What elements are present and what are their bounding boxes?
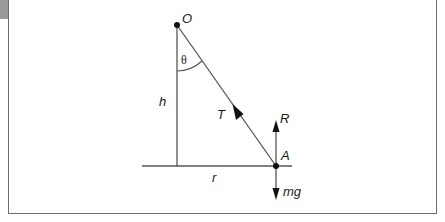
label-mg: mg — [283, 184, 302, 199]
label-h: h — [159, 94, 166, 109]
label-a: A — [280, 148, 290, 163]
weight-arrowhead — [273, 188, 280, 200]
label-r-radius: r — [212, 170, 217, 185]
string-line — [177, 25, 276, 166]
point-a — [273, 163, 279, 169]
label-t: T — [217, 107, 226, 122]
reaction-arrowhead — [273, 120, 280, 132]
label-r-force: R — [280, 111, 289, 126]
label-o: O — [182, 11, 192, 26]
label-theta: θ — [181, 53, 187, 67]
pivot-point — [174, 22, 180, 28]
pendulum-diagram: O θ h T R A r mg — [0, 0, 445, 222]
